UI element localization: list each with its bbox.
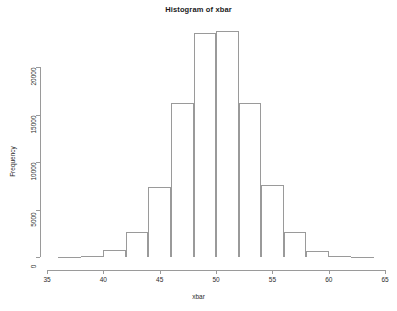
y-axis-tick-label: 0 bbox=[30, 256, 37, 278]
histogram-bar bbox=[284, 232, 307, 257]
histogram-bar bbox=[329, 256, 352, 257]
histogram-bar bbox=[216, 31, 239, 257]
y-axis-tick bbox=[36, 115, 40, 116]
histogram-bar bbox=[126, 232, 149, 257]
x-axis-tick bbox=[329, 270, 330, 274]
x-axis-tick bbox=[103, 270, 104, 274]
x-axis-tick bbox=[385, 270, 386, 274]
histogram-bar bbox=[103, 250, 126, 257]
histogram-bar bbox=[148, 187, 171, 257]
y-axis-tick bbox=[36, 210, 40, 211]
y-axis-tick-label: 10000 bbox=[30, 161, 37, 183]
plot-area: 0500010000150002000035404550556065 bbox=[0, 0, 397, 311]
histogram-bar bbox=[306, 251, 329, 257]
y-axis-title: Frequency bbox=[9, 137, 16, 187]
x-axis-tick-label: 50 bbox=[201, 276, 231, 283]
x-axis-tick-label: 40 bbox=[88, 276, 118, 283]
histogram-bar bbox=[351, 257, 374, 258]
x-axis-tick-label: 65 bbox=[370, 276, 397, 283]
y-axis-line bbox=[40, 67, 41, 257]
histogram-bar bbox=[171, 103, 194, 257]
x-axis-tick bbox=[216, 270, 217, 274]
x-axis-tick-label: 35 bbox=[32, 276, 62, 283]
y-axis-tick-label: 20000 bbox=[30, 66, 37, 88]
histogram-bar bbox=[58, 257, 81, 258]
x-axis-tick bbox=[160, 270, 161, 274]
histogram-bar bbox=[239, 103, 262, 257]
y-axis-tick-label: 5000 bbox=[30, 208, 37, 230]
y-axis-tick bbox=[36, 67, 40, 68]
x-axis-tick bbox=[272, 270, 273, 274]
x-axis-title: xbar bbox=[0, 293, 397, 300]
y-axis-tick bbox=[36, 257, 40, 258]
histogram-bar bbox=[81, 256, 104, 257]
x-axis-tick bbox=[47, 270, 48, 274]
x-axis-tick-label: 55 bbox=[257, 276, 287, 283]
histogram-bar bbox=[261, 185, 284, 257]
x-axis-tick-label: 45 bbox=[145, 276, 175, 283]
x-axis-tick-label: 60 bbox=[314, 276, 344, 283]
y-axis-tick-label: 15000 bbox=[30, 113, 37, 135]
y-axis-tick bbox=[36, 162, 40, 163]
histogram-bar bbox=[194, 33, 217, 257]
histogram-plot: Histogram of xbar 0500010000150002000035… bbox=[0, 0, 397, 311]
